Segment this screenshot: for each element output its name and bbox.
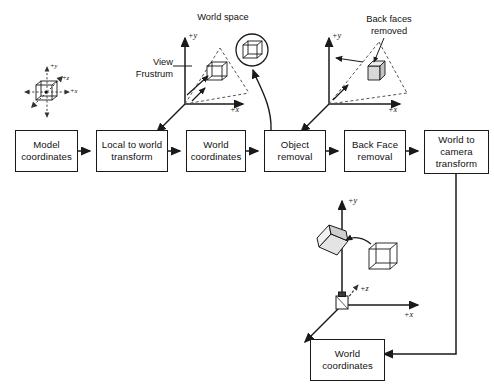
box-world-to-camera-transform[interactable]: World to camera transform bbox=[424, 130, 489, 174]
box-local-to-world-transform[interactable]: Local to world transform bbox=[96, 130, 168, 172]
camera-axis-label-y: +y bbox=[348, 196, 357, 205]
camera-return-route bbox=[384, 174, 456, 354]
box-world-coordinates-label: World coordinates bbox=[188, 139, 245, 164]
box-object-removal-label: Object removal bbox=[275, 139, 316, 164]
box-object-removal[interactable]: Object removal bbox=[264, 130, 326, 172]
camera-axis-label-z: +z bbox=[360, 284, 369, 293]
box-back-face-removal-label: Back Face removal bbox=[349, 139, 401, 164]
box-world-coordinates-final[interactable]: World coordinates bbox=[310, 339, 385, 381]
circled-cube-callout bbox=[236, 34, 271, 130]
box-model-coordinates[interactable]: Model coordinates bbox=[15, 130, 78, 172]
world-axis-label-x: +x bbox=[230, 105, 239, 114]
model-axis-label-x: +x bbox=[70, 87, 77, 94]
world-axis-label-y: +y bbox=[188, 31, 197, 40]
backface-axis-label-x: +x bbox=[388, 105, 397, 114]
diagram-canvas: Model coordinates Local to world transfo… bbox=[0, 0, 494, 389]
diagram-vector-layer bbox=[0, 0, 494, 389]
box-back-face-removal[interactable]: Back Face removal bbox=[344, 130, 406, 172]
box-world-coordinates-final-label: World coordinates bbox=[319, 348, 376, 373]
box-model-coordinates-label: Model coordinates bbox=[18, 139, 75, 164]
model-axis-label-z: +z bbox=[62, 74, 69, 81]
label-world-space: World space bbox=[182, 12, 264, 24]
camera-axis-label-x: +x bbox=[404, 310, 413, 319]
camera-space-diagram bbox=[305, 201, 418, 342]
label-view-frustrum: View Frustrum bbox=[125, 57, 173, 80]
world-space-axes bbox=[157, 38, 249, 132]
box-world-coordinates[interactable]: World coordinates bbox=[186, 130, 246, 172]
model-axis-label-y: +y bbox=[50, 62, 57, 69]
box-world-to-camera-transform-label: World to camera transform bbox=[425, 134, 488, 171]
backface-axis-label-y: +y bbox=[332, 31, 341, 40]
back-faces-axes bbox=[301, 38, 407, 132]
box-local-to-world-transform-label: Local to world transform bbox=[99, 139, 166, 164]
label-back-faces-removed: Back faces removed bbox=[355, 14, 423, 37]
